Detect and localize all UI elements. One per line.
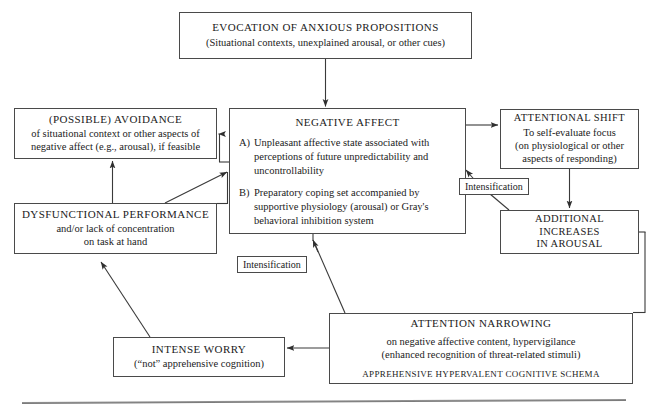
attention-narrowing-line-2: (enhanced recognition of threat-related … (382, 349, 581, 362)
evocation-subtitle: (Situational contexts, unexplained arous… (206, 37, 445, 50)
avoidance-line-2: negative affect (e.g., arousal), if feas… (31, 141, 200, 154)
avoidance-title: (POSSIBLE) AVOIDANCE (49, 113, 182, 126)
box-attention-narrowing: ATTENTION NARROWING on negative affectiv… (329, 313, 633, 384)
dysfunctional-line-2: on task at hand (84, 236, 147, 249)
attention-narrowing-line-1: on negative affective content, hypervigi… (386, 336, 575, 349)
dysfunctional-title: DYSFUNCTIONAL PERFORMANCE (22, 208, 209, 221)
diagram-canvas: EVOCATION OF ANXIOUS PROPOSITIONS (Situa… (0, 0, 648, 414)
box-intense-worry: INTENSE WORRY (“not” apprehensive cognit… (113, 337, 285, 377)
negative-affect-item-a-text: Unpleasant affective state associated wi… (254, 136, 456, 178)
attention-narrowing-title: ATTENTION NARROWING (411, 317, 552, 330)
negative-affect-item-b-text: Preparatory coping set accompanied by su… (254, 186, 456, 228)
attentional-shift-line-1: To self-evaluate focus (523, 127, 616, 140)
arrow-intense-worry-to-dysfunctional (101, 262, 150, 337)
additional-arousal-line-1: ADDITIONAL INCREASES (505, 213, 634, 239)
arrow-dysfunctional-to-negative-affect (165, 172, 227, 203)
label-intensification-left: Intensification (237, 256, 307, 273)
attentional-shift-line-2: (on physiological or other (515, 140, 624, 153)
attentional-shift-line-3: aspects of responding) (522, 153, 616, 166)
box-possible-avoidance: (POSSIBLE) AVOIDANCE of situational cont… (14, 108, 217, 159)
box-attentional-shift: ATTENTIONAL SHIFT To self-evaluate focus… (500, 109, 639, 169)
box-dysfunctional-performance: DYSFUNCTIONAL PERFORMANCE and/or lack of… (14, 203, 217, 254)
negative-affect-item-a-letter: A) (239, 136, 254, 178)
evocation-title: EVOCATION OF ANXIOUS PROPOSITIONS (212, 21, 439, 34)
additional-arousal-line-2: IN AROUSAL (536, 238, 602, 251)
box-additional-increases-in-arousal: ADDITIONAL INCREASES IN AROUSAL (500, 210, 639, 254)
box-evocation-of-anxious-propositions: EVOCATION OF ANXIOUS PROPOSITIONS (Situa… (179, 12, 472, 59)
arrow-attention-narrowing-to-negative-affect (313, 240, 345, 313)
negative-affect-item-a: A) Unpleasant affective state associated… (239, 136, 456, 178)
box-negative-affect: NEGATIVE AFFECT A) Unpleasant affective … (229, 108, 466, 234)
attentional-shift-title: ATTENTIONAL SHIFT (514, 112, 625, 125)
attention-narrowing-schema: APPREHENSIVE HYPERVALENT COGNITIVE SCHEM… (362, 369, 600, 380)
intense-worry-subtitle: (“not” apprehensive cognition) (134, 358, 264, 371)
avoidance-line-1: of situational context or other aspects … (31, 128, 200, 141)
arrow-negative-affect-to-avoidance (219, 134, 230, 162)
label-intensification-right: Intensification (459, 178, 529, 195)
negative-affect-item-b: B) Preparatory coping set accompanied by… (239, 186, 456, 228)
negative-affect-item-b-letter: B) (239, 186, 254, 228)
intense-worry-title: INTENSE WORRY (152, 343, 247, 356)
dysfunctional-line-1: and/or lack of concentration (56, 223, 174, 236)
negative-affect-title: NEGATIVE AFFECT (239, 116, 456, 129)
